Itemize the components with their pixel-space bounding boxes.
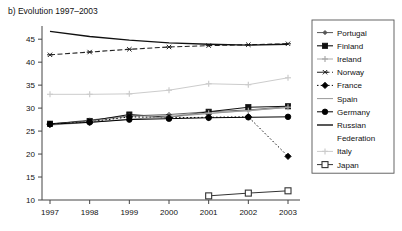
y-axis-tick-label: 35 [26, 81, 35, 90]
legend-label-japan: Japan [337, 161, 359, 170]
series-marker-germany [285, 114, 291, 120]
legend-label-ireland: Ireland [337, 55, 361, 64]
y-axis-tick-label: 10 [26, 196, 35, 205]
legend-label-italy: Italy [337, 147, 352, 156]
x-axis-tick-label: 1997 [41, 208, 59, 217]
series-line-russian-federation [50, 31, 288, 45]
y-axis-tick-label: 25 [26, 127, 35, 136]
series-marker-france [285, 153, 291, 159]
legend-sample-marker [322, 109, 328, 115]
legend-label-spain: Spain [337, 95, 357, 104]
legend-label-portugal: Portugal [337, 29, 367, 38]
y-axis-tick-label: 15 [26, 173, 35, 182]
series-marker-germany [47, 121, 53, 127]
y-axis-tick-label: 40 [26, 58, 35, 67]
legend-label-russian-federation: Federation [337, 134, 375, 143]
series-marker-japan [285, 188, 291, 194]
y-axis-tick-label: 20 [26, 150, 35, 159]
x-axis-tick-label: 2003 [279, 208, 297, 217]
x-axis-tick-label: 2002 [239, 208, 257, 217]
legend-label-france: France [337, 81, 362, 90]
evolution-line-chart: b) Evolution 1997–2003101520253035404519… [0, 0, 402, 231]
y-axis-tick-label: 45 [26, 35, 35, 44]
y-axis-tick-label: 30 [26, 104, 35, 113]
series-marker-germany [166, 116, 172, 122]
series-marker-germany [87, 120, 93, 126]
x-axis-tick-label: 2001 [200, 208, 218, 217]
x-axis-tick-label: 1999 [120, 208, 138, 217]
legend-label-russian-federation: Russian [337, 121, 366, 130]
legend-sample-marker [322, 162, 328, 168]
series-marker-germany [206, 115, 212, 121]
legend-label-norway: Norway [337, 68, 364, 77]
chart-container: b) Evolution 1997–2003101520253035404519… [0, 0, 402, 231]
legend-label-germany: Germany [337, 108, 370, 117]
series-marker-germany [127, 117, 133, 123]
x-axis-tick-label: 1998 [81, 208, 99, 217]
legend-label-finland: Finland [337, 42, 363, 51]
chart-title: b) Evolution 1997–2003 [8, 6, 98, 16]
series-marker-japan [245, 190, 251, 196]
series-marker-japan [206, 193, 212, 199]
series-marker-germany [246, 114, 252, 120]
x-axis-tick-label: 2000 [160, 208, 178, 217]
legend-sample-marker [322, 43, 327, 48]
